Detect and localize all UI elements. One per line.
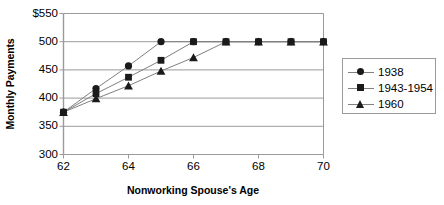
square-marker-icon <box>348 82 374 94</box>
legend-item[interactable]: 1943-1954 <box>348 81 433 95</box>
legend-label: 1943-1954 <box>374 82 433 94</box>
data-point-circle <box>125 62 132 69</box>
data-point-square <box>190 38 197 45</box>
legend-label: 1938 <box>374 66 404 78</box>
data-point-square <box>158 57 165 64</box>
line-chart: Monthly Payments $550500450400350300 626… <box>0 0 444 205</box>
x-axis-title: Nonworking Spouse's Age <box>63 184 323 196</box>
data-point-square <box>125 74 132 81</box>
data-point-triangle <box>157 67 166 75</box>
series-line-1960 <box>64 42 324 113</box>
data-point-circle <box>157 38 164 45</box>
series-line-1938 <box>64 42 324 113</box>
legend-item[interactable]: 1960 <box>348 97 404 111</box>
legend-marker-glyph <box>356 100 364 108</box>
triangle-marker-icon <box>348 98 374 110</box>
data-point-triangle <box>124 81 133 89</box>
legend-marker-glyph <box>357 84 364 91</box>
legend-label: 1960 <box>374 98 404 110</box>
data-point-triangle <box>189 53 198 61</box>
chart-legend: 19381943-19541960 <box>342 58 436 114</box>
legend-marker-glyph <box>357 68 364 75</box>
circle-marker-icon <box>348 66 374 78</box>
series-line-1943-1954 <box>64 42 324 113</box>
legend-item[interactable]: 1938 <box>348 65 404 79</box>
